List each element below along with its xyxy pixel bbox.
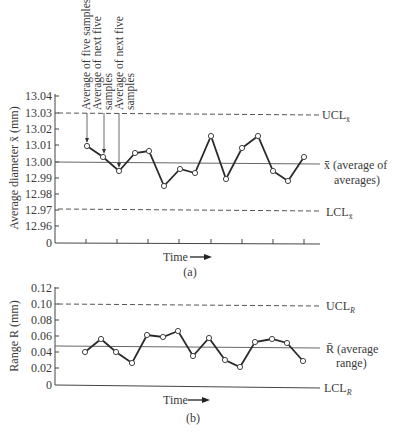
panel-a-x-axis-title: Time (163, 250, 188, 264)
panel-a-x-axis (55, 243, 320, 244)
panel-a-y-axis-title: Average diameter x̄ (mm) (7, 106, 21, 229)
panel-a-y-tick-labels: 13.04 13.03 13.02 13.01 13.00 12.99 12.9… (25, 89, 52, 250)
tick-label: 13.00 (25, 155, 52, 169)
tick-label: 13.03 (25, 106, 52, 120)
panel-a-lcl-line (58, 209, 320, 211)
tick-label: 0 (46, 236, 52, 250)
tick-label: 12.99 (25, 171, 52, 185)
panel-b-y-ticks (55, 288, 59, 368)
panel-a-xbar-series (87, 136, 304, 186)
panel-b-ucl-line (58, 304, 320, 306)
tick-label: 0.06 (31, 329, 52, 343)
tick-label: 0.08 (31, 313, 52, 327)
tick-label: 13.02 (25, 122, 52, 136)
panel-a-xbar-chart: 13.04 13.03 13.02 13.01 13.00 12.99 12.9… (7, 0, 387, 279)
tick-label: 12.98 (25, 187, 52, 201)
panel-b-lcl-label: LCLR (324, 381, 352, 397)
panel-b-range-series (85, 331, 303, 367)
panel-b-center-label-2: range) (336, 356, 367, 370)
tick-label: 13.01 (25, 138, 52, 152)
tick-label: 0.04 (31, 345, 52, 359)
panel-b-range-chart: 0.12 0.10 0.08 0.06 0.04 0.02 0 Range R … (7, 281, 378, 425)
panel-a-ucl-line (58, 113, 320, 115)
panel-a-center-label-1: x̄̄ (average of (324, 158, 387, 172)
panel-a-y-ticks (55, 96, 59, 226)
panel-b-markers (82, 328, 305, 369)
control-charts: 13.04 13.03 13.02 13.01 13.00 12.99 12.9… (0, 0, 396, 439)
panel-a-ucl-label: UCLx̄ (322, 108, 350, 124)
panel-b-lcl-axis-line (55, 385, 320, 388)
tick-label: 0.10 (31, 297, 52, 311)
panel-b-caption: (b) (186, 411, 200, 425)
tick-label: 12.97 (25, 203, 52, 217)
tick-label: 0.12 (31, 281, 52, 295)
annotation-3-line2: samples (124, 72, 137, 110)
panel-a-markers (84, 133, 306, 188)
panel-a-annotations: Average of five samples Average of next … (80, 0, 137, 168)
panel-b-ucl-label: UCLR (326, 299, 355, 315)
panel-a-time-arrow-icon (190, 254, 212, 260)
panel-a-center-line (55, 162, 320, 164)
panel-a-center-label-2: averages) (334, 173, 380, 187)
panel-b-y-axis-title: Range R (mm) (7, 300, 21, 371)
tick-label: 13.04 (25, 89, 52, 103)
panel-b-y-tick-labels: 0.12 0.10 0.08 0.06 0.04 0.02 0 (31, 281, 52, 392)
panel-b-center-label-1: R̄ (average (326, 342, 378, 356)
panel-a-lcl-label: LCLx̄ (326, 205, 353, 221)
panel-b-time-arrow-icon (188, 397, 210, 403)
tick-label: 0 (46, 378, 52, 392)
panel-b-x-axis-title: Time (163, 393, 188, 407)
tick-label: 12.96 (25, 219, 52, 233)
tick-label: 0.02 (31, 361, 52, 375)
panel-a-caption: (a) (183, 265, 196, 279)
